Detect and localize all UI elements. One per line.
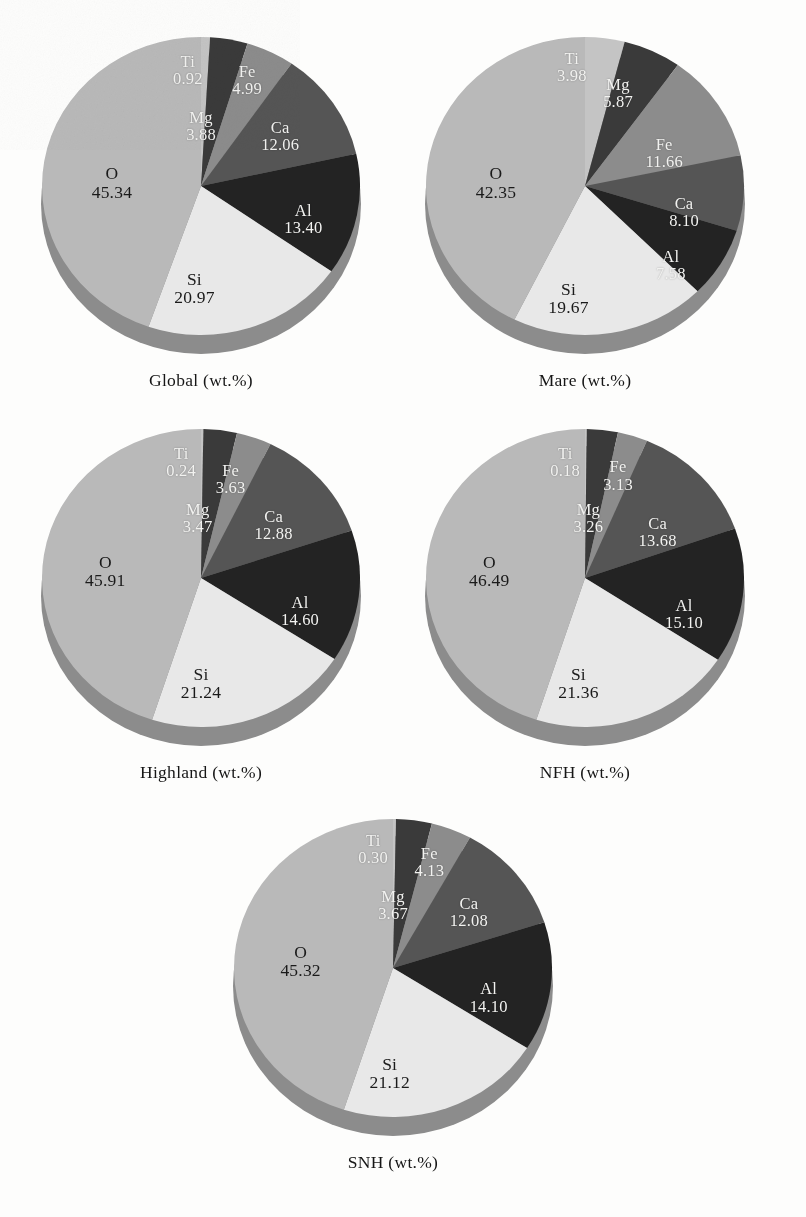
pie-panel-snh: Ti0.30Mg3.67Fe4.13Ca12.08Al14.10Si21.12O… (200, 800, 586, 1192)
figure-canvas: Ti0.92Mg3.88Fe4.99Ca12.06Al13.40Si20.97O… (0, 0, 806, 1217)
pie-chart: Ti3.98Mg5.87Fe11.66Ca8.10Al7.58Si19.67O4… (420, 24, 750, 354)
pie-face (425, 428, 745, 728)
pie-chart: Ti0.92Mg3.88Fe4.99Ca12.06Al13.40Si20.97O… (36, 24, 366, 354)
pie-face (41, 36, 361, 336)
pie-chart: Ti0.18Mg3.26Fe3.13Ca13.68Al15.10Si21.36O… (420, 416, 750, 746)
chart-caption: Mare (wt.%) (392, 370, 778, 391)
pie-panel-highland: Ti0.24Mg3.47Fe3.63Ca12.88Al14.60Si21.24O… (8, 410, 394, 802)
pie-face (233, 818, 553, 1118)
pie-chart: Ti0.24Mg3.47Fe3.63Ca12.88Al14.60Si21.24O… (36, 416, 366, 746)
chart-caption: NFH (wt.%) (392, 762, 778, 783)
chart-caption: SNH (wt.%) (200, 1152, 586, 1173)
pie-panel-mare: Ti3.98Mg5.87Fe11.66Ca8.10Al7.58Si19.67O4… (392, 18, 778, 410)
chart-caption: Global (wt.%) (8, 370, 394, 391)
chart-caption: Highland (wt.%) (8, 762, 394, 783)
pie-face (425, 36, 745, 336)
pie-panel-nfh: Ti0.18Mg3.26Fe3.13Ca13.68Al15.10Si21.36O… (392, 410, 778, 802)
pie-panel-global: Ti0.92Mg3.88Fe4.99Ca12.06Al13.40Si20.97O… (8, 18, 394, 410)
pie-face (41, 428, 361, 728)
pie-chart: Ti0.30Mg3.67Fe4.13Ca12.08Al14.10Si21.12O… (228, 806, 558, 1136)
